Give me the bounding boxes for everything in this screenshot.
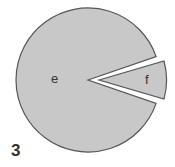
figure-number: 3 bbox=[11, 141, 20, 161]
slice-label-f: f bbox=[145, 72, 149, 87]
pie-chart: e f bbox=[0, 0, 175, 167]
slice-label-e: e bbox=[51, 71, 58, 86]
